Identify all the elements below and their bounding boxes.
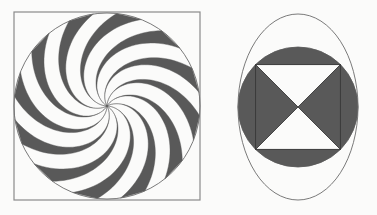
geometric-figures-svg: [0, 0, 377, 215]
figure-canvas: Spiral pinwheel inscribed in square Squa…: [0, 0, 377, 215]
